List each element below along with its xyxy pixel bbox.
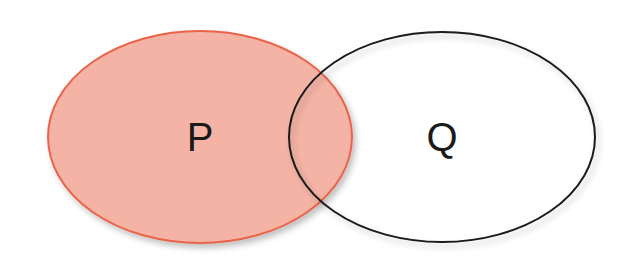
venn-svg: P Q: [0, 0, 631, 266]
set-q-label: Q: [426, 115, 457, 159]
venn-diagram: P Q: [0, 0, 631, 266]
set-p-label: P: [187, 115, 214, 159]
